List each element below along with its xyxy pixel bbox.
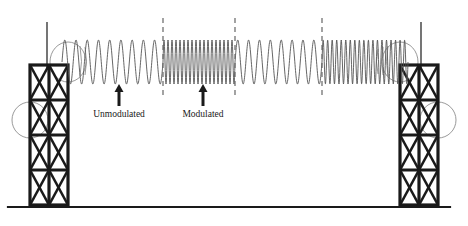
label-modulated: Modulated xyxy=(182,109,223,119)
label-unmodulated: Unmodulated xyxy=(93,109,145,119)
diagram-background xyxy=(0,0,468,226)
radio-link-diagram: Unmodulated Modulated xyxy=(0,0,468,226)
diagram-canvas: Unmodulated Modulated xyxy=(0,0,468,226)
